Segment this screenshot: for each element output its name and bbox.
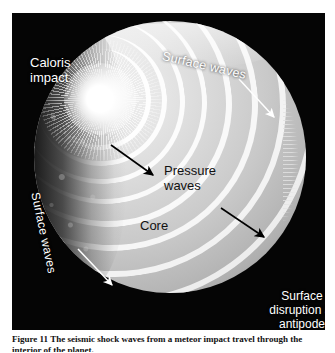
pressure-wave-arrow-upper (108, 141, 164, 185)
figure-panel: Caloris impact Surface waves Surface wav… (12, 13, 325, 330)
figure-caption: Figure 11 The seismic shock waves from a… (12, 334, 332, 352)
label-caloris-impact: Caloris impact (30, 55, 70, 86)
caloris-impact-flash (64, 63, 136, 135)
label-core: Core (140, 218, 168, 233)
label-pressure-waves: Pressure waves (164, 163, 216, 194)
pressure-wave-arrow-lower (218, 203, 276, 249)
surface-wave-arrow-right (236, 75, 288, 129)
surface-wave-arrow-left (74, 245, 126, 297)
label-surface-disruption-antipode: Surface disruption at antipode (260, 289, 325, 330)
